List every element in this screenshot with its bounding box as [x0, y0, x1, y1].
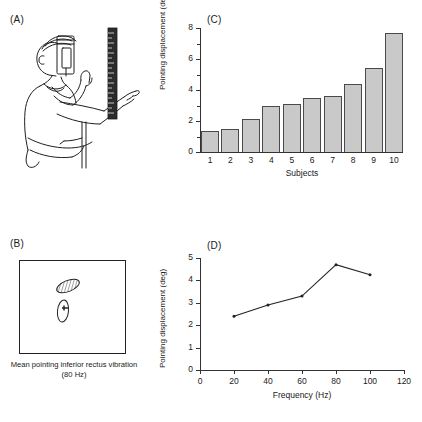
panel-c-x-tick-label: 10	[385, 155, 403, 165]
panel-d-data-point-80hz	[335, 263, 338, 266]
panel-b-plot-area	[19, 260, 126, 354]
hatched-ellipse-marker	[55, 276, 81, 295]
panel-c-x-tick-label: 3	[242, 155, 260, 165]
panel-c-y-tick-label: 8	[188, 22, 193, 32]
panel-a: (A)	[4, 10, 166, 172]
panel-c-bar-6	[303, 98, 321, 152]
panel-c-x-tick-label: 6	[303, 155, 321, 165]
panel-d-data-point-40hz	[267, 304, 270, 307]
panel-c-x-tick-label: 7	[324, 155, 342, 165]
panel-c-y-tick: 2	[196, 121, 200, 122]
panel-b-label: (B)	[10, 238, 24, 249]
panel-c-bar-group	[303, 28, 321, 152]
panel-b-caption: Mean pointing inferior rectus vibration …	[6, 360, 142, 380]
panel-c-y-tick: 8	[196, 28, 200, 29]
panel-c-bar-1	[201, 131, 219, 152]
panel-c-x-tick-label: 1	[201, 155, 219, 165]
panel-c-bar-group	[385, 28, 403, 152]
panel-c-bars	[201, 28, 403, 152]
panel-c-bar-group	[324, 28, 342, 152]
panel-c-y-tick-minor	[197, 44, 200, 45]
panel-c-x-tick-label: 8	[344, 155, 362, 165]
panel-d-line-series	[164, 238, 418, 413]
panel-c-y-tick: 6	[196, 59, 200, 60]
panel-c-bar-group	[221, 28, 239, 152]
panel-c-bar-8	[344, 84, 362, 152]
panel-c-bar-10	[385, 33, 403, 152]
figure-container: (A)	[0, 0, 422, 422]
panel-c-bar-5	[283, 104, 301, 152]
panel-d-data-point-60hz	[301, 295, 304, 298]
panel-c-label: (C)	[207, 14, 221, 25]
panel-b-markers	[20, 261, 125, 353]
panel-c-bar-4	[262, 106, 280, 153]
panel-c-bar-7	[324, 96, 342, 152]
panel-c-y-tick-label: 6	[188, 53, 193, 63]
panel-c-x-axis-title: Subjects	[201, 168, 403, 178]
panel-c-x-tick-label: 4	[262, 155, 280, 165]
panel-c-y-tick-minor	[197, 75, 200, 76]
panel-c-bar-group	[262, 28, 280, 152]
panel-c-bar-group	[242, 28, 260, 152]
panel-c-y-tick-minor	[197, 106, 200, 107]
panel-c-y-tick-label: 2	[188, 115, 193, 125]
panel-c-x-axis	[200, 152, 403, 153]
open-ellipse-marker	[56, 299, 69, 322]
panel-c-y-tick-label: 4	[188, 84, 193, 94]
panel-d-data-point-20hz	[233, 315, 236, 318]
panel-c-y-tick: 0	[196, 152, 200, 153]
panel-d: (D) Pointing displacement (deg) 012345 0…	[164, 238, 418, 413]
panel-c-y-axis-title: Pointing displacement (deg)	[158, 0, 167, 90]
panel-c-bar-2	[221, 129, 239, 152]
panel-d-x-axis-title: Frequency (Hz)	[200, 390, 404, 400]
panel-b: (B) Mean pointing inferior rectus vibrat…	[4, 238, 164, 388]
panel-c-y-tick: 4	[196, 90, 200, 91]
center-cross-icon	[62, 306, 68, 311]
panel-c-x-tick-label: 2	[221, 155, 239, 165]
panel-c-y-tick-minor	[197, 137, 200, 138]
panel-c-bar-9	[365, 68, 383, 152]
vertical-scale-bar	[108, 28, 117, 119]
panel-c-x-tick-label: 9	[365, 155, 383, 165]
panel-c: (C) Pointing displacement (deg) 02468 12…	[164, 10, 418, 190]
panel-c-x-tick-label: 5	[283, 155, 301, 165]
panel-c-y-tick-label: 0	[188, 146, 193, 156]
panel-a-illustration	[4, 10, 166, 172]
panel-c-x-tick-labels: 12345678910	[201, 155, 403, 165]
panel-c-bar-group	[365, 28, 383, 152]
panel-c-bar-group	[201, 28, 219, 152]
panel-c-bar-group	[283, 28, 301, 152]
panel-c-bar-3	[242, 119, 260, 152]
panel-c-bar-group	[344, 28, 362, 152]
panel-d-data-point-100hz	[369, 273, 372, 276]
